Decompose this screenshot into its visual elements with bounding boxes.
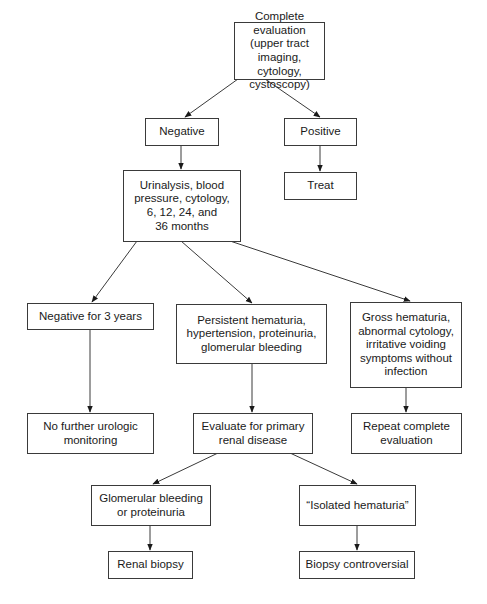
node-repeat-evaluation: Repeat complete evaluation [351,413,462,454]
node-negative: Negative [145,118,219,146]
arrow-evaluate-to-glomerular [153,453,218,484]
node-glomerular-bleeding: Glomerular bleeding or proteinuria [91,485,211,526]
node-complete-evaluation: Complete evaluation (upper tract imaging… [234,22,325,80]
node-isolated-hematuria: “Isolated hematuria” [299,485,416,526]
arrow-urinalysis-to-gross [230,241,410,301]
node-positive: Positive [284,118,357,146]
node-biopsy-controversial: Biopsy controversial [299,551,415,579]
arrow-urinalysis-to-persistent [181,241,252,303]
node-persistent-hematuria: Persistent hematuria, hypertension, prot… [176,304,327,364]
node-no-further-monitoring: No further urologic monitoring [27,413,154,454]
node-urinalysis-followup: Urinalysis, blood pressure, cytology, 6,… [123,170,241,242]
arrow-evaluate-to-isolated [290,453,357,484]
arrow-urinalysis-to-negative3y [92,241,137,302]
node-evaluate-renal-disease: Evaluate for primary renal disease [193,413,313,454]
node-negative-3-years: Negative for 3 years [27,303,154,330]
node-gross-hematuria: Gross hematuria, abnormal cytology, irri… [350,302,462,388]
node-renal-biopsy: Renal biopsy [108,551,193,579]
arrow-complete-to-negative [185,79,238,117]
node-treat: Treat [284,172,357,200]
